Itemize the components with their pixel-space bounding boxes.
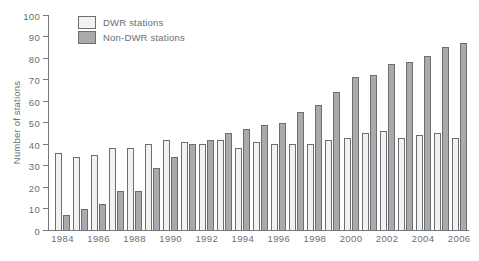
- bar-non-dwr-stations-2000: [352, 77, 359, 230]
- x-tick-label-1990: 1990: [159, 233, 182, 244]
- x-tick-label-2000: 2000: [340, 233, 363, 244]
- x-slot-1997: [289, 230, 304, 246]
- year-group-2004: [416, 56, 431, 230]
- year-group-1988: [127, 148, 142, 230]
- bar-dwr-stations-1989: [145, 144, 152, 230]
- bar-dwr-stations-1992: [199, 144, 206, 230]
- x-slot-2003: [398, 230, 413, 246]
- year-group-2003: [398, 62, 413, 230]
- year-group-1991: [181, 142, 196, 230]
- year-group-1985: [73, 157, 88, 230]
- year-group-1996: [271, 123, 286, 231]
- x-tick-label-1996: 1996: [268, 233, 291, 244]
- bar-non-dwr-stations-1985: [81, 209, 88, 231]
- bar-non-dwr-stations-1998: [315, 105, 322, 230]
- x-tick-label-2004: 2004: [412, 233, 435, 244]
- x-tick-label-1986: 1986: [87, 233, 110, 244]
- bar-dwr-stations-2001: [362, 133, 369, 230]
- y-tick-label: 90: [4, 32, 40, 43]
- bar-dwr-stations-2005: [434, 133, 441, 230]
- bar-non-dwr-stations-2006: [460, 43, 467, 230]
- bar-dwr-stations-1987: [109, 148, 116, 230]
- year-group-2002: [380, 64, 395, 230]
- y-tick-label: 40: [4, 140, 40, 151]
- bar-non-dwr-stations-2002: [388, 64, 395, 230]
- bar-non-dwr-stations-1991: [189, 144, 196, 230]
- bar-dwr-stations-1986: [91, 155, 98, 230]
- bar-dwr-stations-1988: [127, 148, 134, 230]
- x-slot-2005: [434, 230, 449, 246]
- bar-non-dwr-stations-1994: [243, 129, 250, 230]
- bar-non-dwr-stations-1990: [171, 157, 178, 230]
- x-slot-1990: 1990: [163, 230, 178, 246]
- y-tick-label: 0: [4, 226, 40, 237]
- year-group-2000: [344, 77, 359, 230]
- x-tick-label-2002: 2002: [376, 233, 399, 244]
- x-slot-1985: [73, 230, 88, 246]
- year-group-1992: [199, 140, 214, 230]
- x-tick-label-2006: 2006: [448, 233, 471, 244]
- y-tick-label: 100: [4, 11, 40, 22]
- bar-dwr-stations-1998: [307, 144, 314, 230]
- year-group-2001: [362, 75, 377, 230]
- x-slot-1998: 1998: [307, 230, 322, 246]
- bar-dwr-stations-1984: [55, 153, 62, 230]
- bar-non-dwr-stations-1999: [333, 92, 340, 230]
- x-axis-labels: 1984198619881990199219941996199820002002…: [49, 230, 469, 246]
- x-slot-2004: 2004: [416, 230, 431, 246]
- chart-figure: Number of stations DWR stations Non-DWR …: [0, 0, 479, 261]
- x-slot-2001: [362, 230, 377, 246]
- bar-non-dwr-stations-1996: [279, 123, 286, 231]
- x-tick-label-1988: 1988: [123, 233, 146, 244]
- bar-non-dwr-stations-1988: [135, 191, 142, 230]
- bar-non-dwr-stations-1992: [207, 140, 214, 230]
- year-group-1999: [325, 92, 340, 230]
- bar-non-dwr-stations-1987: [117, 191, 124, 230]
- bar-non-dwr-stations-1995: [261, 125, 268, 230]
- year-group-1990: [163, 140, 178, 230]
- x-slot-1989: [145, 230, 160, 246]
- bar-non-dwr-stations-1993: [225, 133, 232, 230]
- year-group-1986: [91, 155, 106, 230]
- plot-area: DWR stations Non-DWR stations 0102030405…: [48, 15, 469, 231]
- y-tick-label: 50: [4, 118, 40, 129]
- bar-dwr-stations-2006: [452, 138, 459, 230]
- x-slot-1992: 1992: [199, 230, 214, 246]
- x-tick-label-1994: 1994: [231, 233, 254, 244]
- x-slot-1987: [109, 230, 124, 246]
- x-slot-1993: [217, 230, 232, 246]
- bar-dwr-stations-1990: [163, 140, 170, 230]
- x-slot-1996: 1996: [271, 230, 286, 246]
- bar-non-dwr-stations-2005: [442, 47, 449, 230]
- year-group-1997: [289, 112, 304, 230]
- bar-dwr-stations-1985: [73, 157, 80, 230]
- bar-non-dwr-stations-2001: [370, 75, 377, 230]
- bar-dwr-stations-2004: [416, 135, 423, 230]
- bar-non-dwr-stations-1986: [99, 204, 106, 230]
- year-group-1998: [307, 105, 322, 230]
- bar-non-dwr-stations-2004: [424, 56, 431, 230]
- year-group-2005: [434, 47, 449, 230]
- bar-dwr-stations-1996: [271, 144, 278, 230]
- x-tick-label-1992: 1992: [195, 233, 218, 244]
- x-slot-1991: [181, 230, 196, 246]
- x-slot-1994: 1994: [235, 230, 250, 246]
- x-tick-label-1984: 1984: [51, 233, 74, 244]
- year-group-1984: [55, 153, 70, 230]
- y-tick-label: 10: [4, 204, 40, 215]
- y-tick-label: 80: [4, 54, 40, 65]
- year-group-1987: [109, 148, 124, 230]
- year-group-1989: [145, 144, 160, 230]
- y-tick-label: 30: [4, 161, 40, 172]
- bar-dwr-stations-1995: [253, 142, 260, 230]
- bar-non-dwr-stations-1989: [153, 168, 160, 230]
- y-tick-label: 70: [4, 75, 40, 86]
- bar-non-dwr-stations-1984: [63, 215, 70, 230]
- x-slot-2002: 2002: [380, 230, 395, 246]
- year-group-1995: [253, 125, 268, 230]
- x-slot-1988: 1988: [127, 230, 142, 246]
- x-slot-1995: [253, 230, 268, 246]
- bar-dwr-stations-2002: [380, 131, 387, 230]
- bar-non-dwr-stations-2003: [406, 62, 413, 230]
- bar-dwr-stations-1997: [289, 144, 296, 230]
